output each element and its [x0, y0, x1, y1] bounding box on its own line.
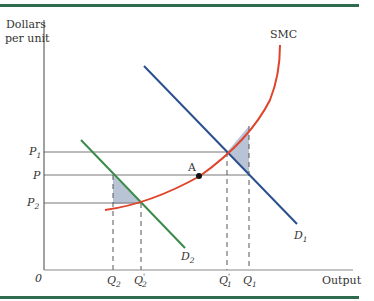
origin-label: 0: [35, 272, 42, 285]
p1-label: P1: [28, 145, 41, 160]
q1-label: Q1: [243, 274, 257, 289]
p2-label: P2: [26, 196, 39, 211]
top-border: [0, 4, 359, 7]
d1-label: D1: [293, 229, 308, 244]
point-a-label: A: [187, 161, 197, 174]
diagram-frame: Dollars per unit Output 0 SMC A D1 D2 P1…: [0, 0, 374, 301]
q2-label: Q2: [107, 274, 121, 289]
y-axis-label-line1: Dollars: [6, 18, 46, 31]
shaded-area-left: [113, 175, 141, 204]
p-label: P: [32, 169, 41, 182]
bottom-border: [0, 296, 359, 299]
q1p-label: Q'1: [219, 272, 232, 289]
x-axis-label: Output: [322, 274, 362, 287]
q2p-label: Q'2: [134, 272, 147, 289]
smc-curve: [105, 45, 280, 210]
d2-label: D2: [180, 250, 195, 265]
y-axis-label-line2: per unit: [5, 32, 50, 45]
d2-curve: [81, 140, 185, 248]
point-a: [196, 173, 202, 179]
smc-label: SMC: [270, 28, 297, 41]
